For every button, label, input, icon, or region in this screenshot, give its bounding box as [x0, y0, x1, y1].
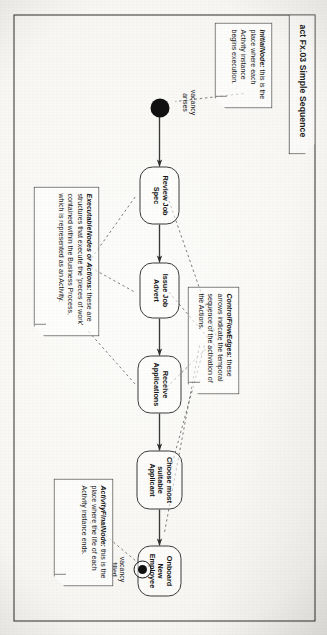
edge-label-start: vacancyarises [179, 74, 196, 130]
action-receive-applications[interactable]: ReceiveApplications [137, 355, 181, 413]
note-title: ControlFlowEdges: [225, 293, 232, 357]
action-label: ReceiveApplications [150, 362, 168, 406]
note-executable-nodes[interactable]: ExecutableNodes or Actions: these are st… [33, 186, 99, 336]
note-control-flow-edges[interactable]: ControlFlowEdges: these arrows indicate … [187, 286, 239, 394]
rotated-diagram-canvas: act Fx.03 Simple Sequence vacancyarises … [0, 0, 327, 635]
note-initial-node[interactable]: InitialNode: this is the place where eac… [214, 22, 272, 108]
note-title: ExecutableNodes or Actions: [85, 193, 92, 290]
action-choose-most-suitable-applicant[interactable]: Choose mostsuitableApplicant [136, 450, 182, 509]
note-title: InitialNode: [258, 29, 265, 67]
diagram-frame-title-tab: act Fx.03 Simple Sequence [288, 14, 315, 154]
action-label: Issue JobAdvert [150, 273, 168, 307]
action-review-job-spec[interactable]: Review JobSpec [139, 166, 179, 224]
action-label: Review JobSpec [150, 175, 168, 215]
note-activity-final-node[interactable]: ActivityFinalNode: this is the place whe… [53, 478, 113, 586]
note-title: ActivityFinalNode: [99, 485, 106, 546]
action-issue-job-advert[interactable]: Issue JobAdvert [139, 262, 179, 318]
diagram-canvas: act Fx.03 Simple Sequence vacancyarises … [0, 0, 327, 635]
diagram-title: act Fx.03 Simple Sequence [297, 24, 307, 137]
initial-node[interactable] [150, 98, 169, 117]
scanned-page: act Fx.03 Simple Sequence vacancyarises … [0, 0, 327, 635]
activity-final-node[interactable] [133, 560, 151, 578]
action-label: Choose mostsuitableApplicant [146, 456, 173, 502]
